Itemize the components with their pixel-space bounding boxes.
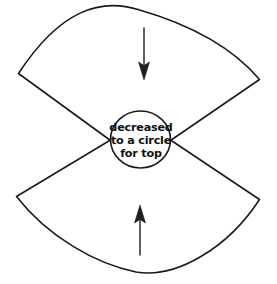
annotation-line-2: to a circle — [111, 134, 172, 147]
sketch-canvas: decreased to a circle for top — [0, 0, 277, 284]
annotation-line-1: decreased — [109, 121, 173, 134]
annotation-line-3: for top — [120, 147, 162, 160]
